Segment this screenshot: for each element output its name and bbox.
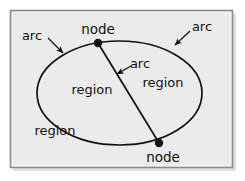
- label-node-top: node: [81, 21, 115, 37]
- label-arc-top-left: arc: [22, 28, 42, 43]
- label-arc-middle: arc: [130, 56, 150, 71]
- node-dot-bottom: [155, 139, 163, 147]
- figure-container: Graph terminology: nodes, arcs and regio…: [0, 0, 245, 181]
- graph-terminology-diagram: Graph terminology: nodes, arcs and regio…: [0, 0, 245, 181]
- label-region-inner-right: region: [142, 75, 183, 90]
- label-arc-top-right: arc: [192, 19, 212, 34]
- node-dot-top: [94, 39, 102, 47]
- label-region-inner-left: region: [71, 82, 112, 97]
- diagram-frame: [11, 11, 233, 168]
- label-region-outer: region: [34, 123, 75, 138]
- label-node-bottom: node: [146, 149, 180, 165]
